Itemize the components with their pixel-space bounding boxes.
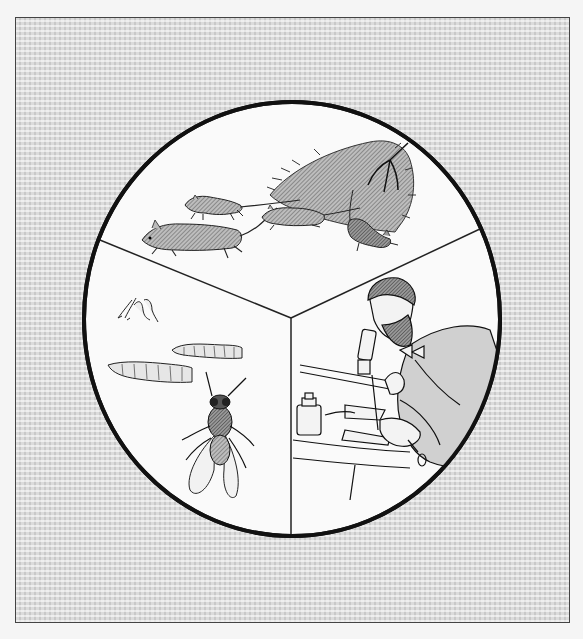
circle-panel [84, 102, 500, 536]
illustration [0, 0, 583, 639]
